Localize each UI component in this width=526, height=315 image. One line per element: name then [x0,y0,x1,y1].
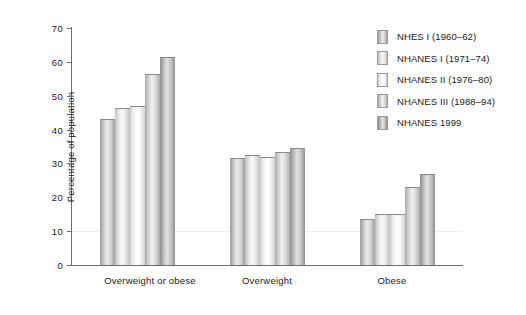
bar-fill [230,158,245,265]
x-axis-line [71,265,463,266]
bar [245,155,260,265]
y-tick-label: 20 [52,192,63,203]
bar [160,57,175,265]
y-tick-label: 50 [52,90,63,101]
bar [290,148,305,265]
legend-label: NHANES II (1976–80) [397,74,492,85]
bar-fill [420,174,435,265]
y-tick-label: 70 [52,23,63,34]
bar [145,74,160,265]
bar [420,174,435,265]
y-tick-label: 0 [57,260,63,271]
y-tick-label: 30 [52,158,63,169]
bar-fill [145,74,160,265]
bar [260,157,275,265]
legend-item: NHANES 1999 [377,112,495,134]
legend-swatch-icon [377,94,388,108]
legend-swatch-icon [377,30,388,44]
legend-item: NHES I (1960–62) [377,26,495,48]
bar-group [202,28,332,265]
y-tick-label: 60 [52,56,63,67]
bar-fill [100,119,115,265]
bar [100,119,115,265]
bar [275,152,290,265]
bar [375,214,390,265]
legend-swatch-icon [377,51,388,65]
legend-label: NHANES 1999 [397,117,461,128]
bar-fill [275,152,290,265]
x-tick-label: Overweight or obese [104,275,195,286]
bar-group [72,28,202,265]
bar-fill [130,106,145,265]
y-tick-mark [67,265,72,266]
bar [230,158,245,265]
bar-fill [360,219,375,265]
bar [360,219,375,265]
legend-item: NHANES I (1971–74) [377,48,495,70]
legend-label: NHANES III (1988–94) [397,96,495,107]
bar-fill [405,187,420,265]
legend-label: NHES I (1960–62) [397,31,476,42]
bar-fill [290,148,305,265]
y-tick-label: 10 [52,226,63,237]
legend-swatch-icon [377,116,388,130]
bar [115,108,130,265]
bar-fill [390,214,405,265]
bar-fill [245,155,260,265]
bar-fill [160,57,175,265]
legend-item: NHANES III (1988–94) [377,91,495,113]
bar-fill [375,214,390,265]
legend-swatch-icon [377,73,388,87]
bar-fill [260,157,275,265]
x-tick-label: Overweight [242,275,292,286]
bar [405,187,420,265]
legend-item: NHANES II (1976–80) [377,69,495,91]
bar [130,106,145,265]
bar-chart: Percentage of population 010203040506070… [0,0,526,315]
x-tick-label: Obese [378,275,407,286]
bar-fill [115,108,130,265]
bar [390,214,405,265]
chart-legend: NHES I (1960–62)NHANES I (1971–74)NHANES… [377,26,495,134]
y-tick-label: 40 [52,124,63,135]
legend-label: NHANES I (1971–74) [397,53,490,64]
